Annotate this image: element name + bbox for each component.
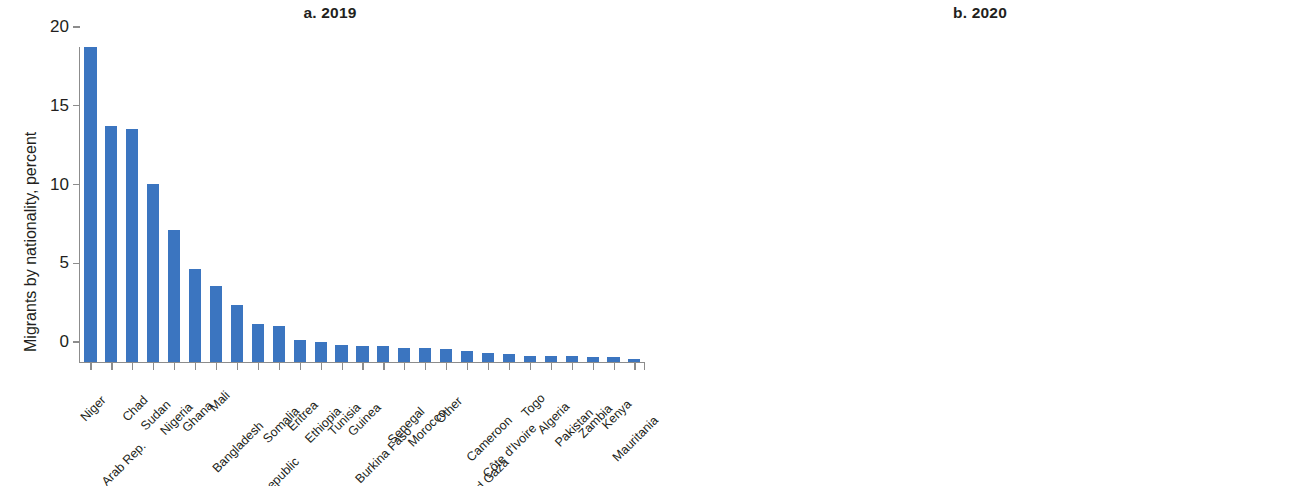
bar[interactable] (252, 324, 264, 362)
y-tick-label: 10 (47, 175, 69, 195)
bar-slot (478, 47, 499, 362)
bar[interactable] (356, 346, 368, 362)
bar[interactable] (315, 342, 327, 362)
panel-a-plot-area: 05101520 NigerEgypt, Arab Rep.ChadSudanN… (80, 47, 645, 362)
bar-slot (603, 47, 624, 362)
bar[interactable] (419, 348, 431, 362)
y-tick-label: 5 (47, 253, 69, 273)
y-tick-mark (73, 263, 80, 264)
x-label-slot: Senegal (394, 362, 415, 482)
x-label-slot: Sudan (143, 362, 164, 482)
x-label-slot: Egypt, Arab Rep. (101, 362, 122, 482)
bar-slot (394, 47, 415, 362)
panel-b-title: b. 2020 (660, 4, 1300, 22)
x-label-slot: Eritrea (289, 362, 310, 482)
x-label-slot: Tunisia (331, 362, 352, 482)
bar-slot (561, 47, 582, 362)
panel-a-2019: a. 2019 Migrants by nationality, percent… (0, 0, 660, 486)
bar-slot (624, 47, 645, 362)
panel-a-y-axis-label: Migrants by nationality, percent (22, 132, 40, 352)
panel-a-y-tick: 10 (47, 175, 80, 195)
bar-slot (101, 47, 122, 362)
bar-slot (247, 47, 268, 362)
bar-slot (80, 47, 101, 362)
bar-slot (331, 47, 352, 362)
bar-slot (268, 47, 289, 362)
bar-slot (373, 47, 394, 362)
x-label-slot: Niger (80, 362, 101, 482)
bar-slot (540, 47, 561, 362)
bar-slot (519, 47, 540, 362)
panel-a-y-tick: 20 (47, 17, 80, 37)
bar[interactable] (168, 230, 180, 362)
x-label-slot: Ethiopia (310, 362, 331, 482)
bar-slot (582, 47, 603, 362)
bar[interactable] (440, 349, 452, 362)
bar[interactable] (210, 286, 222, 362)
bar-slot (289, 47, 310, 362)
x-label-slot: Mauritania (624, 362, 645, 482)
bar-slot (164, 47, 185, 362)
panel-a-x-labels: NigerEgypt, Arab Rep.ChadSudanNigeriaGha… (80, 362, 645, 482)
figure: a. 2019 Migrants by nationality, percent… (0, 0, 1300, 486)
bar-slot (436, 47, 457, 362)
x-label-slot: Kenya (603, 362, 624, 482)
y-tick-mark (73, 26, 80, 27)
bar[interactable] (84, 47, 96, 362)
panel-a-y-tick: 15 (47, 96, 80, 116)
x-label-slot: Pakistan (561, 362, 582, 482)
y-tick-mark (73, 184, 80, 185)
bar-slot (352, 47, 373, 362)
x-label-slot: Algeria (540, 362, 561, 482)
x-label-slot: West Bank and Gaza (457, 362, 478, 482)
x-label-slot: Togo (519, 362, 540, 482)
y-tick-label: 0 (47, 332, 69, 352)
x-label-slot: Ghana (185, 362, 206, 482)
x-label-slot: Other (436, 362, 457, 482)
panel-a-y-tick: 0 (47, 332, 80, 352)
bar-slot (415, 47, 436, 362)
y-tick-mark (73, 105, 80, 106)
bar[interactable] (231, 305, 243, 362)
panel-a-y-tick: 5 (47, 253, 80, 273)
panel-a-title: a. 2019 (0, 4, 678, 22)
x-label-slot: Côte d'Ivoire (498, 362, 519, 482)
bar[interactable] (398, 348, 410, 362)
panel-b-2020: b. 2020 Migrants by nationality, percent… (660, 0, 1300, 486)
x-label-slot: Bangladesh (226, 362, 247, 482)
x-label-slot: Burkina Faso (373, 362, 394, 482)
bar[interactable] (377, 346, 389, 362)
bar-slot (457, 47, 478, 362)
bar-slot (143, 47, 164, 362)
bar-slot (310, 47, 331, 362)
bar-slot (226, 47, 247, 362)
bar-slot (498, 47, 519, 362)
x-label-slot: Syrian Arab Republic (247, 362, 268, 482)
bar[interactable] (126, 129, 138, 362)
x-label-slot: Morocco (415, 362, 436, 482)
bar[interactable] (189, 269, 201, 362)
bar[interactable] (273, 326, 285, 362)
bar-slot (185, 47, 206, 362)
y-tick-label: 15 (47, 96, 69, 116)
panel-a-bars (80, 47, 645, 362)
bar-slot (206, 47, 227, 362)
bar[interactable] (503, 354, 515, 362)
bar[interactable] (147, 184, 159, 362)
bar[interactable] (105, 126, 117, 362)
bar[interactable] (335, 345, 347, 362)
y-tick-mark (73, 341, 80, 342)
bar[interactable] (294, 340, 306, 362)
y-tick-label: 20 (47, 17, 69, 37)
bar[interactable] (461, 351, 473, 362)
bar-slot (122, 47, 143, 362)
bar[interactable] (482, 353, 494, 362)
